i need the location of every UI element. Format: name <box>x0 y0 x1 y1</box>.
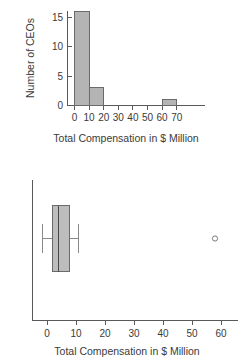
histogram-y-axis-title: Number of CEOs <box>24 18 36 98</box>
histogram-y-ticks <box>68 17 72 106</box>
boxplot-x-tick-label-0: 0 <box>44 328 50 339</box>
histogram-x-ticks <box>75 106 177 110</box>
histogram-x-tick-label-10: 10 <box>84 112 96 123</box>
histogram-y-tick-label-15: 15 <box>52 12 64 23</box>
histogram-x-tick-label-40: 40 <box>127 112 139 123</box>
histogram-x-axis-title: Total Compensation in $ Million <box>53 132 198 144</box>
boxplot-x-tick-label-40: 40 <box>157 328 169 339</box>
histogram-x-tick-label-0: 0 <box>72 112 78 123</box>
boxplot-svg: 0 10 20 30 40 50 60 Total Compensation i… <box>0 180 250 361</box>
boxplot-x-ticks <box>47 321 221 326</box>
boxplot-x-tick-label-20: 20 <box>99 328 111 339</box>
boxplot-x-tick-label-10: 10 <box>70 328 82 339</box>
histogram-panel: 0 5 10 15 Number of CEOs 0 10 <box>0 0 250 180</box>
histogram-x-tick-label-50: 50 <box>142 112 154 123</box>
histogram-x-tick-label-30: 30 <box>113 112 125 123</box>
boxplot-x-tick-label-50: 50 <box>186 328 198 339</box>
boxplot-x-tick-label-60: 60 <box>215 328 227 339</box>
histogram-x-tick-label-20: 20 <box>98 112 110 123</box>
boxplot-x-tick-label-30: 30 <box>128 328 140 339</box>
boxplot-x-axis-title: Total Compensation in $ Million <box>54 345 199 357</box>
histogram-x-tick-label-60: 60 <box>157 112 169 123</box>
boxplot-panel: 0 10 20 30 40 50 60 Total Compensation i… <box>0 180 250 361</box>
boxplot-box <box>53 206 70 272</box>
histogram-y-tick-label-5: 5 <box>57 71 63 82</box>
boxplot-outlier-point <box>212 236 217 241</box>
histogram-y-tick-label-10: 10 <box>52 41 64 52</box>
histogram-bar-10-20 <box>89 88 104 106</box>
histogram-svg: 0 5 10 15 Number of CEOs 0 10 <box>0 0 250 180</box>
histogram-bar-0-10 <box>75 12 90 106</box>
histogram-bar-60-70 <box>162 100 177 106</box>
histogram-bars <box>75 12 177 106</box>
histogram-y-tick-label-0: 0 <box>57 100 63 111</box>
histogram-x-tick-label-70: 70 <box>171 112 183 123</box>
